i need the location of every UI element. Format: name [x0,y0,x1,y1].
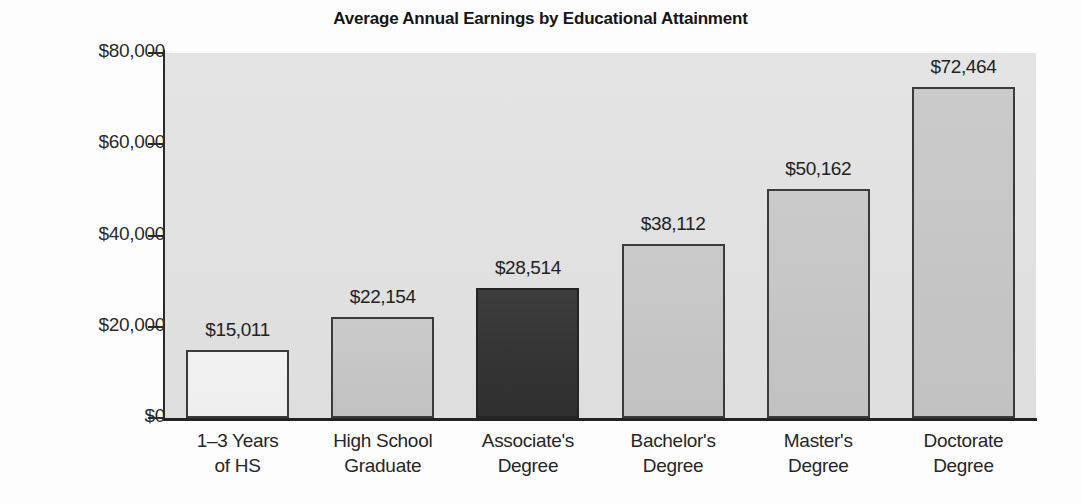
y-axis-ticks: $0$20,000$40,000$60,000$80,000 [0,0,165,504]
y-tick-label: $0 [37,405,165,427]
bar-value-label: $72,464 [873,56,1053,78]
bar-value-label: $38,112 [583,213,763,235]
category-label-line1: Master's [784,430,853,451]
category-label: DoctorateDegree [873,428,1053,478]
bar-value-label: $50,162 [728,158,908,180]
x-axis-line [163,418,1037,421]
chart-figure: Average Annual Earnings by Educational A… [0,0,1081,504]
bar-value-label: $22,154 [293,286,473,308]
bar-value-label: $15,011 [148,319,328,341]
category-label-line1: High School [333,430,432,451]
bar-bachelor-s-degree[interactable] [622,244,725,418]
category-label-line1: Bachelor's [631,430,716,451]
y-tick-label: $60,000 [37,131,165,153]
category-label-line1: Associate's [482,430,574,451]
bar-value-label: $28,514 [438,257,618,279]
category-label-line1: Doctorate [924,430,1004,451]
bar-high-school-graduate[interactable] [331,317,434,418]
category-label-line2: Degree [873,453,1053,478]
plot-area [165,53,1036,418]
bar-associate-s-degree[interactable] [476,288,579,418]
y-tick-label: $80,000 [37,40,165,62]
bar-master-s-degree[interactable] [767,189,870,418]
bar-1-3-years-of-hs[interactable] [186,350,289,418]
category-label-line1: 1–3 Years [197,430,279,451]
y-tick-label: $40,000 [37,223,165,245]
bar-doctorate-degree[interactable] [912,87,1015,418]
y-tick-label: $20,000 [37,314,165,336]
